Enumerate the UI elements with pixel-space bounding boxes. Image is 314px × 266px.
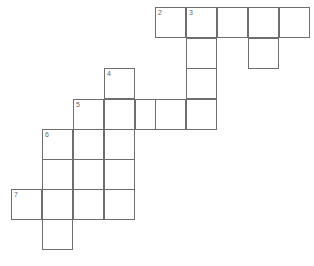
cell-number: 5 bbox=[76, 101, 80, 109]
cell-number: 4 bbox=[107, 70, 111, 78]
cell-r2c3[interactable]: 4 bbox=[104, 68, 135, 99]
cell-r1c6[interactable] bbox=[186, 38, 217, 69]
cell-r0c8[interactable] bbox=[248, 7, 279, 38]
cell-number: 7 bbox=[14, 191, 18, 199]
cell-r6c3[interactable] bbox=[104, 189, 135, 220]
cell-r0c7[interactable] bbox=[217, 7, 248, 38]
cell-r3c6[interactable] bbox=[186, 99, 217, 130]
cell-number: 2 bbox=[158, 9, 162, 17]
cell-r6c0[interactable]: 7 bbox=[11, 189, 42, 220]
cell-r0c9[interactable] bbox=[279, 7, 310, 38]
cell-r3c2[interactable]: 5 bbox=[73, 99, 104, 130]
cell-r0c6[interactable]: 3 bbox=[186, 7, 217, 38]
cell-r4c2[interactable] bbox=[73, 129, 104, 160]
cell-number: 6 bbox=[45, 131, 49, 139]
cell-r6c2[interactable] bbox=[73, 189, 104, 220]
cell-r0c5[interactable]: 2 bbox=[155, 7, 186, 38]
cell-r4c3[interactable] bbox=[104, 129, 135, 160]
cell-r3c3[interactable] bbox=[104, 99, 135, 130]
cell-r4c1[interactable]: 6 bbox=[42, 129, 73, 160]
cell-r2c6[interactable] bbox=[186, 68, 217, 99]
crossword-grid: 234567 bbox=[0, 0, 314, 266]
cell-r1c8[interactable] bbox=[248, 38, 279, 69]
cell-r5c2[interactable] bbox=[73, 159, 104, 190]
cell-r5c3[interactable] bbox=[104, 159, 135, 190]
cell-r6c1[interactable] bbox=[42, 189, 73, 220]
cell-r5c1[interactable] bbox=[42, 159, 73, 190]
cell-r3c5[interactable] bbox=[155, 99, 186, 130]
cell-r7c1[interactable] bbox=[42, 219, 73, 250]
cell-number: 3 bbox=[189, 9, 193, 17]
